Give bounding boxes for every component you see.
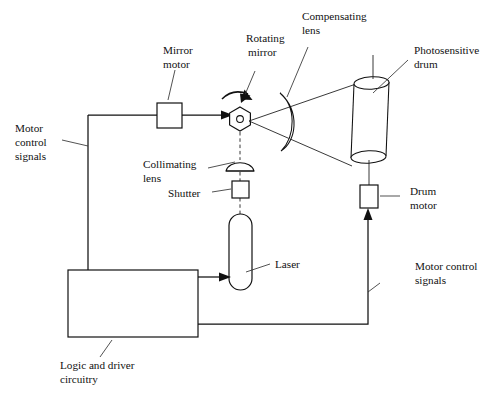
compensating-lens-shape	[280, 93, 294, 151]
beam-lower-ray	[249, 121, 352, 166]
label-mirror-motor: Mirror motor	[163, 44, 193, 70]
shutter-label: Shutter	[168, 187, 201, 199]
laser-label: Laser	[275, 258, 300, 270]
rotating-mirror-hub	[237, 116, 244, 123]
rotating-mirror-label-line1: Rotating	[246, 32, 285, 44]
label-compensating-lens: Compensating lens	[302, 10, 367, 36]
drum-motor-label-line2: motor	[410, 199, 437, 211]
arrowhead-drum-drive	[364, 208, 373, 220]
mirror-motor-box	[157, 103, 182, 128]
label-drum-motor: Drum motor	[410, 185, 437, 211]
motor-control-left-line2: control	[15, 136, 47, 148]
logic-driver-box	[68, 270, 198, 337]
leader-mirror-motor	[168, 70, 175, 100]
drum-left-side	[351, 84, 354, 158]
motor-control-right-line2: signals	[415, 274, 446, 286]
drum-motor-box	[360, 185, 378, 208]
photosensitive-drum-label-line1: Photosensitive	[414, 44, 479, 56]
leader-motor-control-left	[62, 140, 88, 146]
scan-beam-fan	[249, 84, 356, 166]
leader-logic-driver	[100, 340, 112, 357]
label-rotating-mirror: Rotating mirror	[246, 32, 285, 58]
logic-driver-label-line2: circuitry	[60, 373, 98, 385]
motor-control-left-line3: signals	[15, 150, 46, 162]
wire-laser-drive	[198, 273, 231, 282]
shutter-box	[232, 181, 249, 198]
motor-control-right-line1: Motor control	[415, 260, 477, 272]
drum-motor-label-line1: Drum	[410, 185, 436, 197]
compensating-lens-label-line2: lens	[302, 24, 320, 36]
label-logic-and-driver-circuitry: Logic and driver circuitry	[60, 359, 135, 385]
collimating-lens-label-line1: Collimating	[143, 158, 197, 170]
mirror-motor-label-line2: motor	[163, 58, 190, 70]
label-collimating-lens: Collimating lens	[143, 158, 197, 184]
motor-control-left-line1: Motor	[15, 122, 43, 134]
rotation-arrow	[222, 90, 253, 101]
leader-motor-control-right	[368, 283, 380, 292]
compensating-lens-group	[280, 93, 294, 151]
rotating-mirror-label-line2: mirror	[248, 46, 277, 58]
wire-mirror-motor-bus	[88, 111, 233, 271]
label-photosensitive-drum: Photosensitive drum	[414, 44, 479, 70]
label-laser: Laser	[275, 258, 300, 270]
photosensitive-drum-group	[351, 55, 389, 185]
wire-logic-to-drum-motor	[198, 217, 368, 324]
collimating-lens-shape	[226, 163, 254, 171]
drum-bottom-ellipse	[351, 150, 386, 164]
leader-rotating-mirror	[244, 71, 255, 97]
beam-upper-ray	[249, 84, 356, 121]
mirror-motor-label-line1: Mirror	[163, 44, 193, 56]
logic-driver-label-line1: Logic and driver	[60, 359, 135, 371]
label-motor-control-signals-right: Motor control signals	[415, 260, 477, 286]
leader-compensating-lens	[287, 47, 308, 97]
laser-printer-diagram: Mirror motor Rotating mirror Compensatin…	[0, 0, 504, 397]
leader-shutter	[212, 189, 231, 192]
laser-body	[229, 214, 252, 290]
compensating-lens-label-line1: Compensating	[302, 10, 367, 22]
drum-right-side	[386, 82, 389, 156]
label-shutter: Shutter	[168, 187, 201, 199]
label-motor-control-signals-left: Motor control signals	[15, 122, 47, 162]
schematic-canvas: Mirror motor Rotating mirror Compensatin…	[0, 0, 504, 397]
rotating-mirror-group	[230, 107, 251, 131]
collimating-lens-group	[226, 163, 254, 171]
collimating-lens-label-line2: lens	[143, 172, 161, 184]
photosensitive-drum-label-line2: drum	[414, 58, 438, 70]
